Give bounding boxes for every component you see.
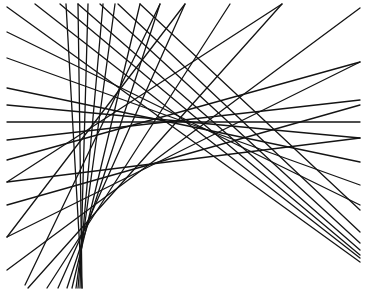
line-envelope-diagram — [0, 0, 365, 293]
